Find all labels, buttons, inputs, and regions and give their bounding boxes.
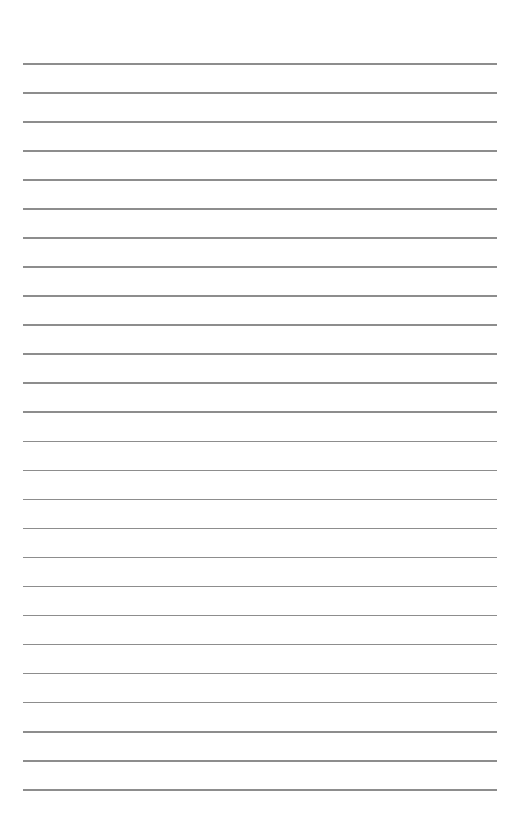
ruled-line [23, 382, 497, 384]
ruled-line [23, 470, 497, 472]
ruled-line [23, 237, 497, 239]
ruled-line [23, 586, 497, 588]
ruled-line [23, 557, 497, 559]
ruled-line [23, 266, 497, 268]
ruled-line [23, 63, 497, 65]
ruled-line [23, 92, 497, 94]
ruled-line [23, 441, 497, 443]
ruled-line [23, 411, 497, 413]
ruled-line [23, 615, 497, 617]
ruled-line [23, 499, 497, 501]
ruled-line [23, 789, 497, 791]
lined-paper-page [0, 0, 514, 829]
ruled-line [23, 528, 497, 530]
ruled-line [23, 702, 497, 704]
ruled-line [23, 353, 497, 355]
ruled-line [23, 644, 497, 646]
ruled-line [23, 208, 497, 210]
ruled-line [23, 121, 497, 123]
ruled-line [23, 731, 497, 733]
ruled-line [23, 150, 497, 152]
ruled-line [23, 179, 497, 181]
ruled-line [23, 295, 497, 297]
ruled-line [23, 324, 497, 326]
ruled-line [23, 760, 497, 762]
ruled-line [23, 673, 497, 675]
